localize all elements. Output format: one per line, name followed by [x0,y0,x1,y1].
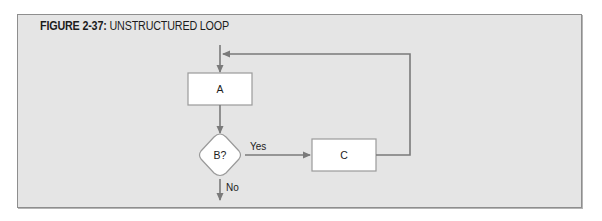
node-b-label: B? [214,149,227,161]
node-c-label: C [340,149,348,161]
process-box-c: C [312,139,376,171]
node-a-label: A [216,83,223,95]
process-box-a: A [188,73,252,105]
flowchart: A B? Yes C No [0,0,602,221]
decision-diamond-b: B? [200,134,241,176]
no-label: No [226,182,239,193]
yes-label: Yes [250,141,266,152]
